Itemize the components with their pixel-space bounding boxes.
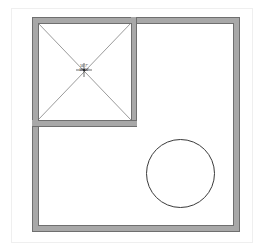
hip-roof-diagonals [38, 23, 131, 120]
floor-plan-svg [0, 0, 264, 252]
floor-plan-canvas: 16' 7" 18' 10" [0, 0, 264, 252]
drawing-area: 16' 7" 18' 10" [0, 0, 264, 252]
circular-feature [147, 140, 215, 208]
dimension-marker-dot [83, 69, 85, 71]
